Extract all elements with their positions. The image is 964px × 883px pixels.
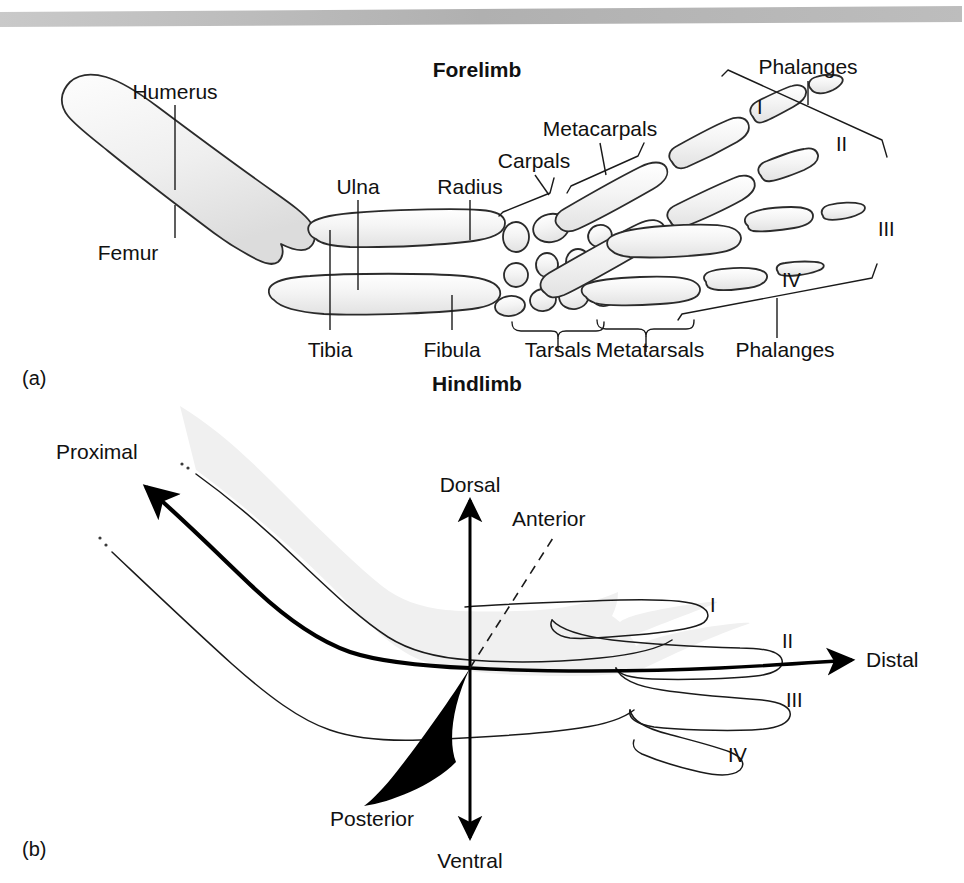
digit-label-II-b: II	[782, 630, 793, 652]
label-metacarpals: Metacarpals	[543, 117, 657, 140]
limb-silhouette	[180, 406, 750, 676]
label-fibula: Fibula	[423, 338, 481, 361]
bone-ulna	[269, 274, 501, 315]
label-humerus: Humerus	[132, 80, 217, 103]
bone-humerus-femur	[62, 75, 315, 264]
leader-carpals	[535, 175, 549, 195]
label-hindlimb: Hindlimb	[432, 372, 522, 395]
digit-label-IV-a: IV	[782, 269, 802, 291]
figure-canvas: Forelimb Hindlimb Humerus Femur Ulna Rad…	[0, 0, 964, 883]
anatomy-figure: Forelimb Hindlimb Humerus Femur Ulna Rad…	[0, 0, 964, 883]
label-femur: Femur	[98, 241, 159, 264]
label-tibia: Tibia	[308, 338, 353, 361]
bracket-metatarsals	[597, 320, 694, 336]
label-tarsals: Tarsals	[525, 338, 592, 361]
leader-metacarpals	[600, 143, 606, 175]
digit-label-I-b: I	[710, 594, 716, 616]
digit-label-III-a: III	[878, 218, 895, 240]
label-radius: Radius	[437, 175, 502, 198]
label-proximal: Proximal	[56, 440, 138, 463]
label-distal: Distal	[866, 648, 919, 671]
digit-label-III-b: III	[786, 689, 803, 711]
digit-label-IV-b: IV	[728, 744, 748, 766]
label-metatarsals: Metatarsals	[596, 338, 705, 361]
bracket-tarsals	[512, 322, 604, 338]
bracket-carpals	[499, 178, 554, 216]
label-anterior: Anterior	[512, 507, 586, 530]
label-ulna: Ulna	[336, 175, 380, 198]
panel-label-a: (a)	[22, 367, 46, 389]
digit-label-I-a: I	[757, 96, 763, 118]
axis-posterior-wedge	[364, 668, 470, 806]
label-phalanges-hind: Phalanges	[735, 338, 834, 361]
label-forelimb: Forelimb	[433, 58, 522, 81]
label-phalanges-fore: Phalanges	[758, 55, 857, 78]
panel-a-skeleton: Forelimb Hindlimb Humerus Femur Ulna Rad…	[22, 55, 895, 395]
panel-label-b: (b)	[22, 838, 46, 860]
label-ventral: Ventral	[437, 849, 502, 872]
bracket-phalanges-fore	[722, 70, 887, 157]
digit-III-bones	[607, 203, 865, 258]
digit-label-II-a: II	[836, 133, 847, 155]
panel-b-limb-axes: Proximal Distal Dorsal Ventral Anterior …	[22, 406, 919, 872]
header-rule	[0, 6, 962, 27]
bone-radius	[308, 209, 505, 247]
label-carpals: Carpals	[498, 149, 570, 172]
label-dorsal: Dorsal	[440, 473, 501, 496]
label-posterior: Posterior	[330, 807, 414, 830]
